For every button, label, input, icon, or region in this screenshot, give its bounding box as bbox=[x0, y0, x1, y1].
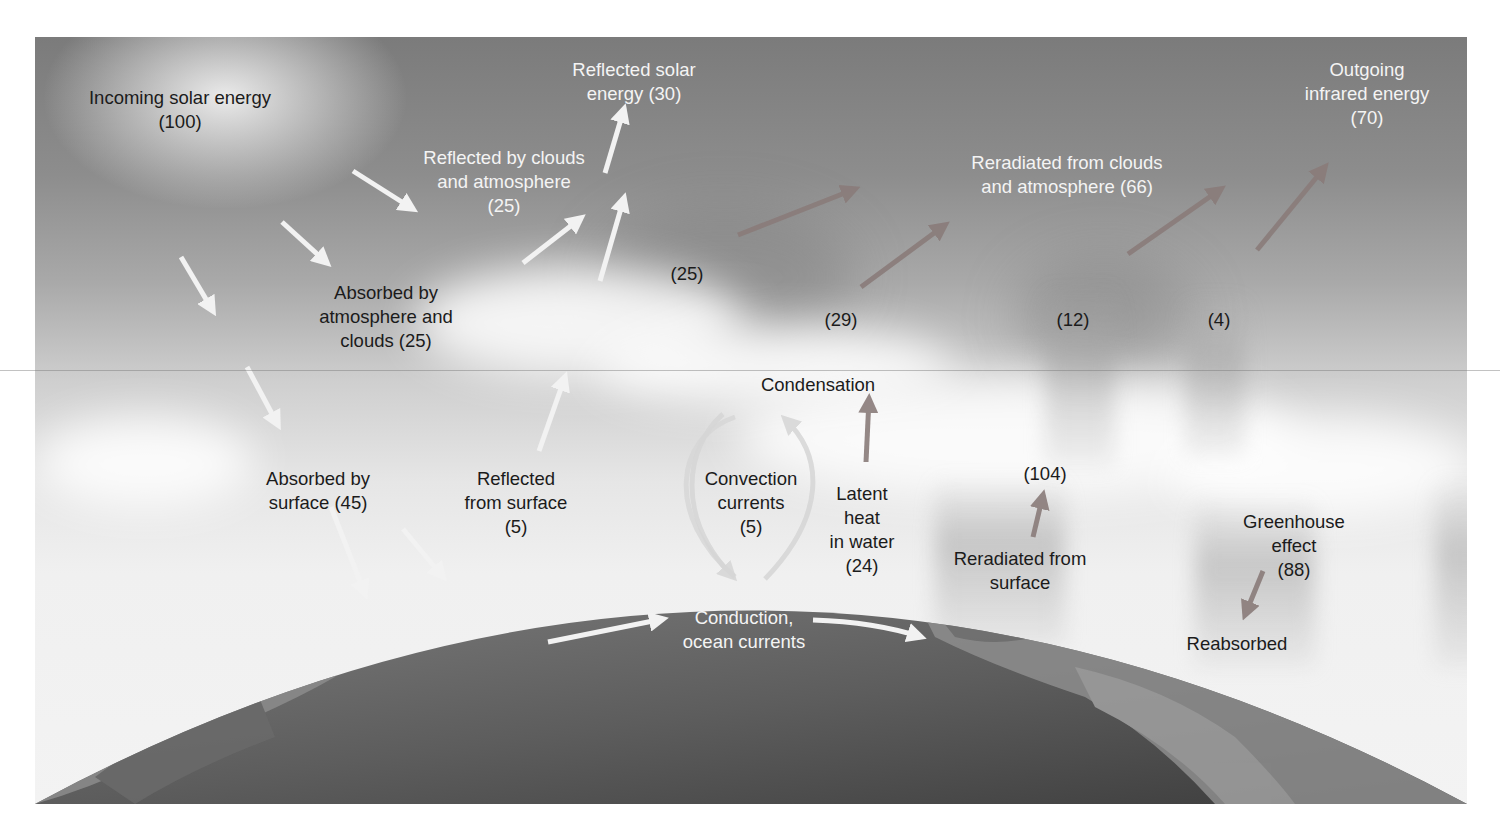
label-reflected-surface: Reflected from surface (5) bbox=[440, 467, 592, 539]
label-reradiated-surface: Reradiated from surface bbox=[930, 547, 1110, 595]
label-value-104: (104) bbox=[1010, 462, 1080, 486]
label-greenhouse: Greenhouse effect (88) bbox=[1222, 510, 1366, 582]
label-value-25: (25) bbox=[657, 262, 717, 286]
label-absorbed-surface: Absorbed by surface (45) bbox=[238, 467, 398, 515]
reflected-surface-arrow bbox=[539, 377, 565, 451]
label-value-12: (12) bbox=[1043, 308, 1103, 332]
incoming-arrow bbox=[282, 222, 327, 263]
label-conduction: Conduction, ocean currents bbox=[664, 606, 824, 654]
label-reflected-solar: Reflected solar energy (30) bbox=[534, 58, 734, 106]
infrared-arrow bbox=[1257, 167, 1325, 250]
incoming-arrow bbox=[331, 507, 365, 594]
label-value-29: (29) bbox=[811, 308, 871, 332]
label-absorbed-atmosphere: Absorbed by atmosphere and clouds (25) bbox=[300, 281, 472, 353]
conduction-arrow bbox=[548, 619, 663, 642]
diagram-frame bbox=[35, 37, 1467, 804]
label-reabsorbed: Reabsorbed bbox=[1170, 632, 1304, 656]
label-convection: Convection currents (5) bbox=[686, 467, 816, 539]
reflected-arrow bbox=[523, 218, 581, 263]
label-outgoing-infrared: Outgoing infrared energy (70) bbox=[1282, 58, 1452, 130]
label-value-4: (4) bbox=[1189, 308, 1249, 332]
incoming-arrow bbox=[247, 367, 278, 425]
label-reflected-clouds: Reflected by clouds and atmosphere (25) bbox=[398, 146, 610, 218]
flow-arrows bbox=[35, 37, 1467, 804]
incoming-arrow bbox=[181, 257, 213, 311]
incoming-arrow bbox=[403, 529, 443, 577]
latent-heat-arrow bbox=[866, 399, 869, 462]
label-condensation: Condensation bbox=[738, 373, 898, 397]
image-seam bbox=[0, 370, 1500, 371]
reradiated-surface-arrow bbox=[1033, 495, 1043, 537]
label-incoming-solar: Incoming solar energy (100) bbox=[60, 86, 300, 134]
conduction-arrow bbox=[813, 620, 921, 637]
infrared-arrow bbox=[861, 225, 945, 287]
infrared-arrow bbox=[738, 189, 855, 235]
label-latent-heat: Latent heat in water (24) bbox=[812, 482, 912, 578]
label-reradiated-clouds: Reradiated from clouds and atmosphere (6… bbox=[942, 151, 1192, 199]
